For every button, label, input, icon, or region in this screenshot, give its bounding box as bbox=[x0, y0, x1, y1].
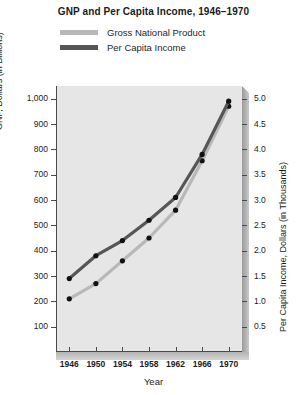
data-point-marker bbox=[93, 281, 98, 286]
y-axis-right-tick bbox=[242, 99, 247, 100]
chart-title: GNP and Per Capita Income, 1946–1970 bbox=[0, 6, 307, 17]
plot-bevel-right-cap bbox=[242, 86, 256, 93]
y-axis-right-tick bbox=[242, 327, 247, 328]
series-line bbox=[69, 101, 228, 278]
y-axis-left-tick-label: 800 bbox=[8, 144, 48, 154]
data-point-marker bbox=[93, 253, 98, 258]
y-axis-left-tick-label: 200 bbox=[8, 296, 48, 306]
legend-item-gross-national-product: Gross National Product bbox=[60, 25, 205, 40]
data-point-marker bbox=[173, 208, 178, 213]
y-axis-left-tick-label: 100 bbox=[8, 321, 48, 331]
data-point-marker bbox=[120, 238, 125, 243]
data-point-marker bbox=[173, 195, 178, 200]
data-point-marker bbox=[226, 99, 231, 104]
y-axis-left-tick-label: 300 bbox=[8, 271, 48, 281]
y-axis-right-tick bbox=[242, 276, 247, 277]
y-axis-right-tick-label: 4.5 bbox=[254, 119, 282, 129]
y-axis-right-title: Per Capita Income, Dollars (in Thousands… bbox=[278, 162, 288, 332]
y-axis-right-tick bbox=[242, 301, 247, 302]
y-axis-right-tick bbox=[242, 251, 247, 252]
y-axis-right-tick bbox=[242, 225, 247, 226]
legend-item-per-capita-income: Per Capita Income bbox=[60, 40, 205, 55]
y-axis-left-tick-label: 1,000 bbox=[8, 93, 48, 103]
y-axis-right-tick bbox=[242, 175, 247, 176]
x-axis-title: Year bbox=[0, 376, 307, 387]
y-axis-right-tick bbox=[242, 149, 247, 150]
series-lines bbox=[56, 86, 242, 352]
series-line bbox=[69, 106, 228, 299]
y-axis-left-tick-label: 600 bbox=[8, 195, 48, 205]
chart-figure: GNP and Per Capita Income, 1946–1970 Gro… bbox=[0, 0, 307, 395]
x-axis-tick-label: 1970 bbox=[212, 359, 246, 369]
y-axis-right-tick-label: 5.0 bbox=[254, 93, 282, 103]
legend-swatch-icon bbox=[60, 30, 98, 35]
legend-swatch-icon bbox=[60, 45, 98, 50]
y-axis-left-title: GNP, Dollars (in Billions) bbox=[0, 32, 4, 130]
legend-label: Per Capita Income bbox=[107, 42, 186, 53]
chart-legend: Gross National Product Per Capita Income bbox=[60, 25, 205, 55]
data-point-marker bbox=[200, 152, 205, 157]
plot-area-wrapper bbox=[56, 86, 242, 352]
data-point-marker bbox=[120, 258, 125, 263]
y-axis-left-tick-label: 400 bbox=[8, 245, 48, 255]
y-axis-left-tick-label: 500 bbox=[8, 220, 48, 230]
data-point-marker bbox=[67, 276, 72, 281]
y-axis-right-tick-label: 4.0 bbox=[254, 144, 282, 154]
y-axis-left-tick-label: 900 bbox=[8, 119, 48, 129]
data-point-marker bbox=[67, 296, 72, 301]
y-axis-right-tick bbox=[242, 124, 247, 125]
legend-label: Gross National Product bbox=[107, 27, 205, 38]
plot-bevel-right bbox=[242, 86, 249, 352]
y-axis-right-tick bbox=[242, 200, 247, 201]
data-point-marker bbox=[146, 218, 151, 223]
data-point-marker bbox=[146, 235, 151, 240]
y-axis-left-tick-label: 700 bbox=[8, 169, 48, 179]
